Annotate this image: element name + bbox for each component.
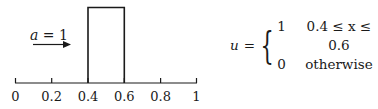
velocity-label: a = 1 <box>30 27 68 43</box>
x-axis-ticks <box>16 78 197 83</box>
equation-cases: 1 0.4 ≤ x ≤ 0.6 0 otherwise <box>277 17 378 74</box>
initial-condition-equation: u = { 1 0.4 ≤ x ≤ 0.6 0 otherwise <box>230 23 378 67</box>
equation-equals: = <box>244 37 255 53</box>
case-1-condition: 0.4 ≤ x ≤ 0.6 <box>300 17 378 55</box>
case-2-value: 0 <box>277 55 286 74</box>
equation-lhs: u <box>230 37 239 53</box>
case-2-condition: otherwise <box>300 55 378 74</box>
square-pulse <box>88 8 124 84</box>
tick-label-1: 1 <box>192 89 200 104</box>
tick-label-0.8: 0.8 <box>150 89 171 104</box>
tick-label-0.4: 0.4 <box>78 89 99 104</box>
case-1-value: 1 <box>277 17 286 55</box>
tick-label-0.6: 0.6 <box>114 89 135 104</box>
left-brace-icon: { <box>260 26 273 64</box>
tick-label-0.2: 0.2 <box>41 89 62 104</box>
x-axis-tick-labels: 0 0.2 0.4 0.6 0.8 1 <box>11 89 200 104</box>
tick-label-0: 0 <box>11 89 19 104</box>
